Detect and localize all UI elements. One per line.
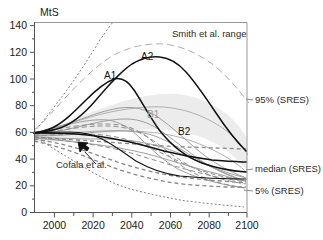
- x-axis-ticks: [54, 213, 247, 218]
- y-tick-label-100: 100: [9, 73, 27, 85]
- chart-svg: 0 20 40 60 80 100 120 140 2000 2020 2040…: [0, 0, 323, 240]
- annotation-smith-range: Smith et al. range: [172, 28, 246, 39]
- y-tick-label-140: 140: [9, 19, 27, 31]
- annotation-median-sres: median (SRES): [255, 163, 321, 174]
- x-tick-label-2020: 2020: [81, 219, 105, 231]
- annotation-cofala: Cofala et al.: [56, 159, 107, 170]
- y-tick-label-0: 0: [21, 206, 27, 218]
- series-ensemble-4: [34, 137, 246, 178]
- annotation-95-sres: 95% (SRES): [255, 94, 309, 105]
- y-axis-unit-label: MtS: [40, 6, 59, 18]
- annotation-a1: A1: [104, 70, 117, 81]
- x-tick-label-2080: 2080: [198, 219, 222, 231]
- y-tick-label-60: 60: [15, 126, 27, 138]
- y-tick-label-80: 80: [15, 99, 27, 111]
- annotation-a2: A2: [141, 51, 154, 62]
- x-tick-label-2040: 2040: [120, 219, 144, 231]
- annotation-b1: B1: [147, 109, 160, 120]
- series-smith-lower-envelope: [34, 136, 244, 207]
- x-tick-label-2100: 2100: [235, 219, 259, 231]
- y-tick-label-40: 40: [15, 153, 27, 165]
- x-tick-label-2060: 2060: [159, 219, 183, 231]
- leader-5-sres: [244, 190, 253, 191]
- annotation-b2: B2: [178, 126, 191, 137]
- x-tick-label-2000: 2000: [43, 219, 67, 231]
- y-tick-label-120: 120: [9, 46, 27, 58]
- annotation-5-sres: 5% (SRES): [255, 185, 304, 196]
- sulfur-emissions-chart: 0 20 40 60 80 100 120 140 2000 2020 2040…: [0, 0, 323, 240]
- y-tick-label-20: 20: [15, 179, 27, 191]
- y-axis-ticks: [30, 26, 35, 213]
